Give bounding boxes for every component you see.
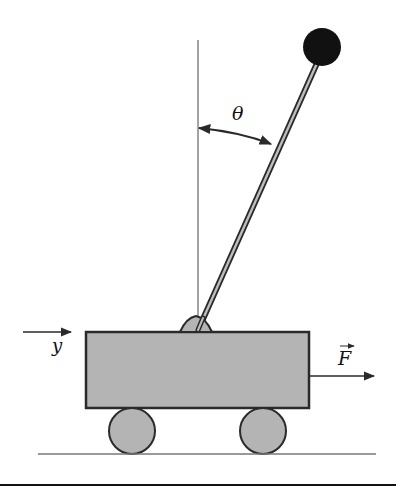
pendulum-bob	[303, 28, 341, 66]
front-wheel	[109, 408, 155, 454]
inverted-pendulum-diagram: θ y F	[0, 0, 396, 487]
pendulum-rod	[199, 52, 322, 328]
force-label: F	[338, 349, 351, 368]
angle-label: θ	[232, 104, 243, 123]
rear-wheel	[240, 408, 286, 454]
angle-arc-arrow	[199, 128, 271, 144]
diagram-svg	[0, 0, 396, 487]
cart-body	[86, 332, 309, 408]
position-label: y	[52, 337, 62, 355]
